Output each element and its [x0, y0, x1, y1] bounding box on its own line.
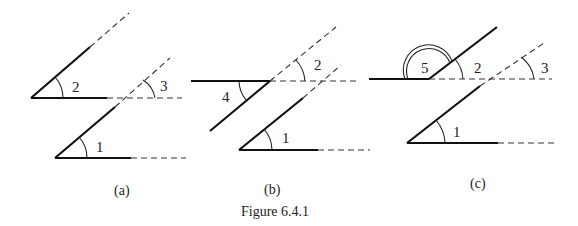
- panel-c-angle-2-label: 2: [474, 60, 482, 76]
- panel-b-angle-2-label: 2: [314, 57, 322, 73]
- panel-c-angle-3-arc: [521, 57, 534, 79]
- panel-a-upper-ray-slanted-extension: [90, 13, 129, 47]
- panel-b: 4 2 1 (b): [191, 27, 370, 198]
- panel-a-lower-ray-slanted: [55, 107, 115, 158]
- panel-c-angle-2-arc: [455, 59, 463, 79]
- figure-caption: Figure 6.4.1: [241, 204, 309, 219]
- panel-b-caption: (b): [264, 182, 281, 198]
- figure-6-4-1: 2 1 3 (a) 4 2 1 (b): [0, 0, 578, 226]
- panel-b-angle-1-label: 1: [282, 130, 290, 146]
- panel-b-angle-1-arc: [264, 129, 272, 150]
- panel-b-angle-4-label: 4: [222, 89, 230, 105]
- panel-a-upper-ray-slanted: [31, 47, 90, 98]
- panel-c-caption: (c): [470, 176, 486, 192]
- panel-c-angle-1-label: 1: [453, 124, 461, 140]
- panel-a-angle-1-label: 1: [96, 139, 104, 155]
- panel-b-angle-4-arc: [239, 81, 246, 100]
- panel-a-caption: (a): [114, 183, 130, 199]
- panel-c: 5 2 1 3 (c): [369, 27, 554, 192]
- panel-a-angle-3-arc: [143, 80, 155, 98]
- panel-c-upper-slanted-ray: [429, 27, 497, 79]
- panel-a-angle-2-label: 2: [72, 79, 80, 95]
- panel-c-lower-ray-slanted-extension: [480, 43, 544, 86]
- panel-a-angle-1-arc: [79, 137, 87, 158]
- panel-c-angle-1-arc: [436, 120, 445, 143]
- panel-a-angle-3-label: 3: [160, 78, 168, 94]
- panel-a: 2 1 3 (a): [31, 13, 186, 199]
- panel-c-angle-5-label: 5: [421, 60, 429, 76]
- panel-a-angle-2-arc: [55, 77, 63, 98]
- panel-b-angle-2-arc: [296, 60, 305, 81]
- panel-c-angle-3-label: 3: [541, 60, 549, 76]
